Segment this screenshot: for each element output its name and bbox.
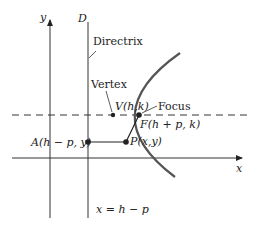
focus-point	[136, 112, 142, 118]
p-coord-label: P(x,y)	[129, 135, 162, 148]
directrix-equation-label: x = h − p	[96, 203, 149, 216]
vertex-leader	[106, 91, 112, 112]
focus-name-label: Focus	[158, 100, 191, 113]
x-axis-label: x	[236, 162, 243, 175]
directrix-leader	[89, 51, 96, 58]
a-coord-label: A(h − p, y)	[30, 136, 91, 149]
directrix-letter-label: D	[77, 12, 87, 25]
vertex-coord-label: V(h,k)	[115, 100, 149, 113]
y-axis-label: y	[39, 11, 47, 24]
vertex-point	[111, 113, 115, 117]
focus-coord-label: F(h + p, k)	[139, 118, 200, 131]
vertex-name-label: Vertex	[90, 78, 128, 91]
parabola-diagram: y x D Directrix Vertex V(h,k) Focus F(h …	[0, 0, 257, 229]
p-point	[123, 139, 129, 145]
directrix-name-label: Directrix	[93, 35, 143, 48]
